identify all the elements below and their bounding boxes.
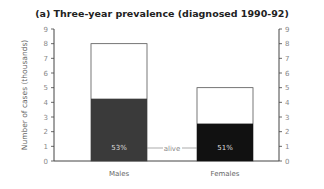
right-tick-label: 5 [285,84,289,92]
right-tick-label: 1 [285,143,289,151]
left-tick-label: 8 [44,40,48,48]
left-tick-label: 3 [44,114,48,122]
category-label: Females [211,170,240,178]
right-tick-label: 2 [285,128,289,136]
left-tick-label: 6 [44,70,49,78]
left-tick-label: 4 [44,99,49,107]
left-tick-label: 9 [44,26,48,34]
right-tick-label: 8 [285,40,289,48]
bar-percent-label: 53% [111,144,127,152]
category-label: Males [109,170,130,178]
left-tick-label: 7 [44,55,48,63]
left-tick-label: 5 [44,84,48,92]
right-tick-label: 0 [285,158,289,166]
right-tick-label: 9 [285,26,289,34]
y-axis-label: Number of cases (thousands) [20,40,29,151]
left-tick-label: 0 [44,158,48,166]
annotation-alive: alive [164,145,181,153]
right-tick-label: 3 [285,114,289,122]
left-tick-label: 1 [44,143,48,151]
right-tick-label: 6 [285,70,290,78]
left-tick-label: 2 [44,128,48,136]
right-tick-label: 7 [285,55,289,63]
bar-percent-label: 51% [217,144,233,152]
bar-alive-females [197,124,253,161]
bar-chart: 01234567890123456789Number of cases (tho… [0,0,324,189]
right-tick-label: 4 [285,99,290,107]
